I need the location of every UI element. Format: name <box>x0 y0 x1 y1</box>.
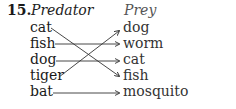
match-arrows <box>0 0 236 109</box>
arrow-cat-fish <box>51 28 119 76</box>
